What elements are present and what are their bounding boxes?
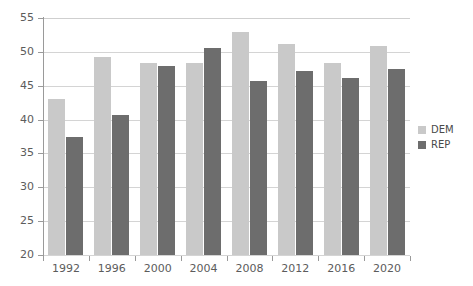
bar-rep-2016 bbox=[342, 78, 359, 255]
bar-rep-1996 bbox=[112, 115, 129, 255]
plot-area bbox=[43, 18, 410, 255]
bar-dem-2004 bbox=[186, 63, 203, 255]
x-tick-mark bbox=[410, 256, 411, 261]
bar-rep-1992 bbox=[66, 137, 83, 255]
x-tick-mark bbox=[181, 256, 182, 261]
y-tick-label: 25 bbox=[4, 215, 34, 226]
y-tick-label: 20 bbox=[4, 249, 34, 260]
legend-item-rep: REP bbox=[418, 137, 454, 152]
bar-dem-2008 bbox=[232, 32, 249, 255]
y-tick-label: 55 bbox=[4, 12, 34, 23]
x-tick-mark bbox=[318, 256, 319, 261]
y-tick-mark bbox=[38, 18, 44, 19]
bar-dem-1996 bbox=[94, 57, 111, 255]
y-tick-mark bbox=[38, 120, 44, 121]
x-tick-mark bbox=[43, 256, 44, 261]
legend-swatch-dem-icon bbox=[418, 126, 426, 134]
bar-dem-2020 bbox=[370, 46, 387, 255]
y-tick-label: 50 bbox=[4, 46, 34, 57]
y-tick-mark bbox=[38, 52, 44, 53]
legend-label: DEM bbox=[431, 125, 454, 135]
bar-rep-2008 bbox=[250, 81, 267, 255]
legend-label: REP bbox=[431, 140, 450, 150]
x-tick-mark bbox=[364, 256, 365, 261]
y-tick-label: 40 bbox=[4, 114, 34, 125]
bar-rep-2004 bbox=[204, 48, 221, 255]
bar-rep-2020 bbox=[388, 69, 405, 255]
chart-legend: DEMREP bbox=[418, 122, 454, 152]
legend-item-dem: DEM bbox=[418, 122, 454, 137]
bar-dem-2016 bbox=[324, 63, 341, 255]
y-tick-mark bbox=[38, 221, 44, 222]
bar-rep-2012 bbox=[296, 71, 313, 255]
legend-swatch-rep-icon bbox=[418, 141, 426, 149]
y-tick-label: 45 bbox=[4, 80, 34, 91]
x-tick-mark bbox=[272, 256, 273, 261]
y-tick-mark bbox=[38, 153, 44, 154]
y-tick-mark bbox=[38, 187, 44, 188]
bar-dem-2000 bbox=[140, 63, 157, 255]
y-tick-label: 30 bbox=[4, 181, 34, 192]
x-tick-mark bbox=[89, 256, 90, 261]
x-tick-mark bbox=[135, 256, 136, 261]
gridline bbox=[43, 18, 410, 19]
bar-dem-2012 bbox=[278, 44, 295, 255]
y-tick-mark bbox=[38, 86, 44, 87]
bar-rep-2000 bbox=[158, 66, 175, 255]
y-tick-label: 35 bbox=[4, 147, 34, 158]
x-tick-label-2020: 2020 bbox=[357, 263, 417, 275]
bar-dem-1992 bbox=[48, 99, 65, 255]
y-axis-labels: 2025303540455055 bbox=[0, 0, 34, 286]
bar-chart: 2025303540455055 DEMREP 1992199620002004… bbox=[0, 0, 473, 286]
x-tick-mark bbox=[227, 256, 228, 261]
gridline bbox=[43, 52, 410, 53]
